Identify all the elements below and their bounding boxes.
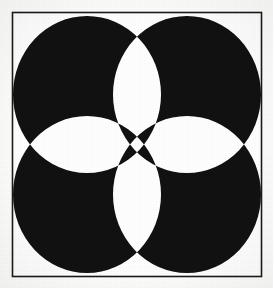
- margin-bottom: [0, 277, 273, 288]
- margin-right: [262, 0, 274, 288]
- margin-left: [0, 0, 13, 288]
- margin-top: [0, 0, 273, 13]
- artwork-canvas: [0, 0, 273, 288]
- rosette-pattern-svg: [0, 0, 273, 288]
